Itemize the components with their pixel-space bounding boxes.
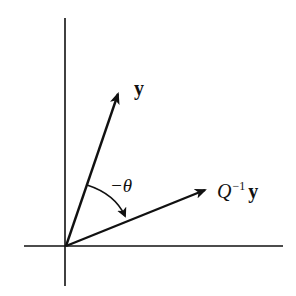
angle-label: −θ [110,176,132,195]
diagram-canvas: y −θ Q−1y [0,0,296,296]
vector-y-label: y [134,78,144,98]
vector-q-inverse-y-arrow [66,190,205,246]
vector-y-symbol: y [248,180,258,202]
inverse-exponent: −1 [232,179,245,193]
diagram-svg [0,0,296,296]
vector-y-arrow [66,94,118,246]
matrix-q-symbol: Q [217,180,231,202]
vector-q-inverse-y-label: Q−1y [217,180,258,201]
